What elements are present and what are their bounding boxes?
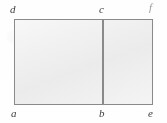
vertex-label-d: d (10, 4, 16, 15)
vertex-label-c: c (99, 4, 104, 15)
geometry-figure: d c f a b e (0, 0, 167, 123)
divider-segment-bc (102, 19, 104, 105)
vertex-label-e: e (148, 108, 153, 119)
vertex-label-a: a (11, 108, 17, 119)
vertex-label-b: b (99, 108, 105, 119)
outer-rectangle-adfe (14, 19, 153, 105)
vertex-label-f: f (149, 2, 152, 13)
